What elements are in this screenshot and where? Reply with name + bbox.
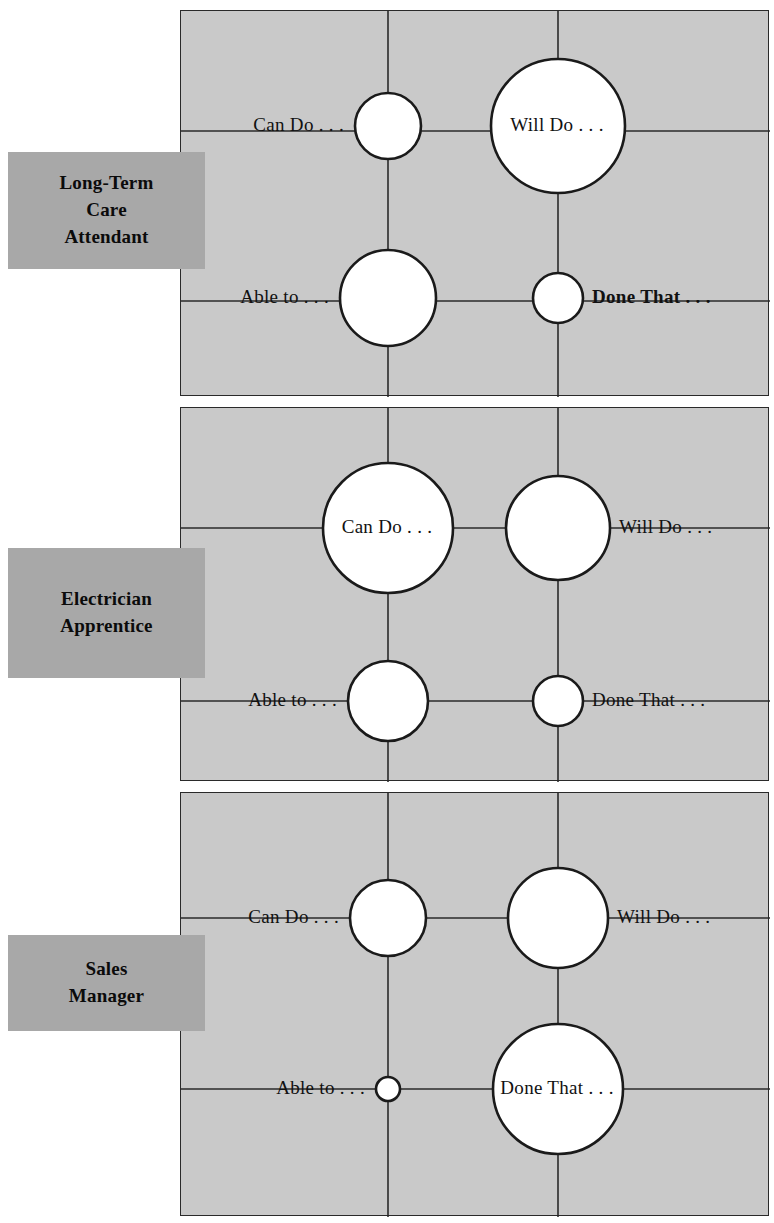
role-box-0: Long-Term Care Attendant [8,152,205,269]
role-box-2: Sales Manager [8,935,205,1031]
panel-2 [180,792,769,1216]
panel-grid-0 [181,11,770,397]
figure-canvas: Can Do . . .Will Do . . .Able to . . .Do… [0,0,774,1223]
bubble-can-do[interactable] [350,880,426,956]
role-label-1: Electrician Apprentice [60,586,152,640]
panel-grid-2 [181,793,770,1217]
bubble-able-to[interactable] [348,661,428,741]
bubble-label-able-to: Able to . . . [240,286,329,308]
bubble-done-that[interactable] [533,676,583,726]
role-box-1: Electrician Apprentice [8,548,205,678]
bubble-label-can-do: Can Do . . . [342,516,433,538]
bubble-will-do[interactable] [506,476,610,580]
bubble-able-to[interactable] [340,250,436,346]
bubble-label-able-to: Able to . . . [248,689,337,711]
bubble-label-done-that: Done That . . . [592,286,711,308]
bubble-will-do[interactable] [508,868,608,968]
panel-grid-1 [181,408,770,782]
bubble-done-that[interactable] [533,273,583,323]
role-label-0: Long-Term Care Attendant [60,170,154,251]
bubble-label-done-that: Done That . . . [592,689,705,711]
role-label-2: Sales Manager [69,956,144,1010]
panel-1 [180,407,769,781]
bubble-label-will-do: Will Do . . . [510,114,603,136]
bubble-label-able-to: Able to . . . [276,1077,365,1099]
bubble-label-will-do: Will Do . . . [619,516,712,538]
bubble-label-will-do: Will Do . . . [617,906,710,928]
panel-0 [180,10,769,396]
bubble-able-to[interactable] [376,1077,400,1101]
bubble-label-done-that: Done That . . . [500,1077,613,1099]
bubble-label-can-do: Can Do . . . [248,906,339,928]
bubble-can-do[interactable] [355,93,421,159]
bubble-label-can-do: Can Do . . . [253,114,344,136]
